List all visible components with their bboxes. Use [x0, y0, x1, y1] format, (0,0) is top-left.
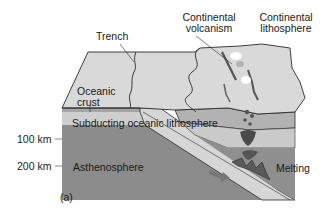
magma-droplet — [250, 114, 254, 118]
magma-droplet — [245, 110, 249, 114]
subducting-label-part1: Subducting oceanic lithosphere — [72, 118, 218, 129]
panel-label: (a) — [60, 192, 73, 203]
oceanic-crust-band — [62, 108, 143, 112]
trench-label: Trench — [96, 31, 128, 42]
continental-lithosphere-line2: lithosphere — [253, 23, 319, 34]
oceanic-crust-label: Oceanic crust — [77, 86, 116, 108]
depth-label-100km: 100 km — [17, 134, 51, 145]
continental-volcanism-label: Continental volcanism — [176, 12, 242, 34]
depth-label-200km: 200 km — [17, 161, 51, 172]
melting-label: Melting — [276, 163, 310, 174]
volcano-shading — [236, 61, 244, 67]
subducting-oceanic-lithosphere-label: Subducting oceanic lithosphere — [72, 118, 218, 129]
volcanic-plume — [230, 52, 242, 60]
magma-droplet — [243, 118, 247, 122]
subduction-diagram: Trench Continental volcanism Continental… — [0, 0, 331, 210]
magma-droplet — [248, 122, 252, 126]
continental-volcanism-line2: volcanism — [176, 23, 242, 34]
asthenosphere-label: Asthenosphere — [73, 162, 144, 173]
volcanic-plume — [241, 76, 251, 84]
oceanic-crust-line2: crust — [77, 97, 116, 108]
continental-lithosphere-label: Continental lithosphere — [253, 12, 319, 34]
